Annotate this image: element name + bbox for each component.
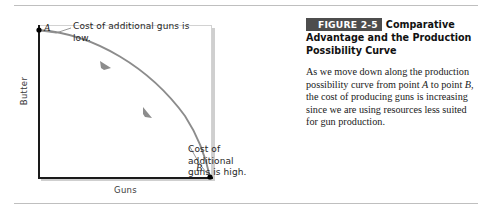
data-point-a [36,27,41,32]
bottom-divider-rule [14,203,478,204]
point-label-a: A [44,22,50,33]
figure-body-text: As we move down along the production pos… [306,66,474,129]
production-possibility-chart: A B Cost of additional guns is low. Cost… [0,8,245,200]
annotation-high-cost: Cost of additional guns is high. [188,144,258,179]
y-axis-label: Butter [19,61,29,121]
direction-arrowhead-1 [100,61,111,70]
figure-number-badge: FIGURE 2-5 [306,18,382,31]
figure-heading: FIGURE 2-5Comparative Advantage and the … [306,18,474,57]
top-divider-rule [14,5,478,6]
figure-caption-column: FIGURE 2-5Comparative Advantage and the … [306,18,474,129]
annotation-low-cost: Cost of additional guns is low. [73,21,203,44]
direction-arrowhead-2 [143,107,152,118]
production-possibility-curve [39,30,210,177]
body-segment-2: to point [428,79,465,90]
x-axis-label: Guns [38,185,213,195]
